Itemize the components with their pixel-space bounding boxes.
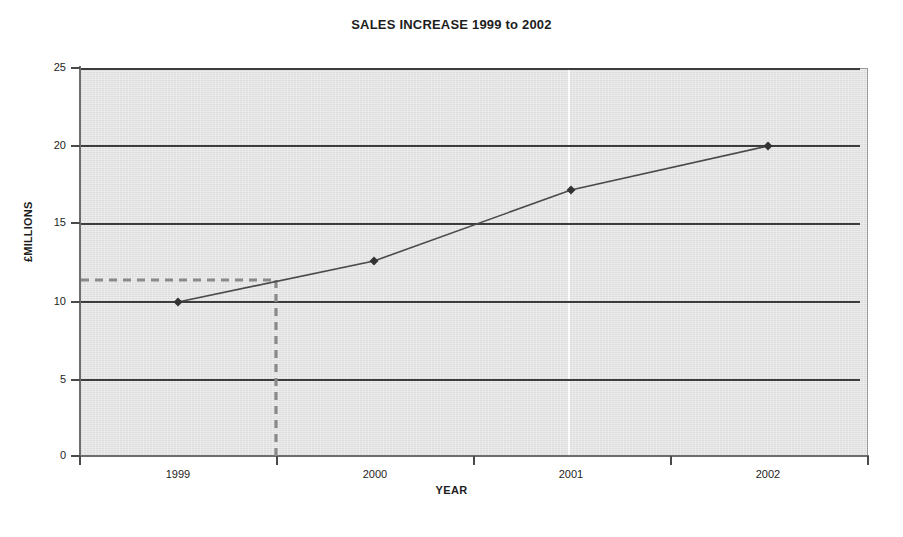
- scan-line-artifact: [568, 68, 570, 456]
- x-tick-start: [79, 456, 81, 465]
- plot-background-texture: [80, 68, 868, 456]
- y-tick-label-20: 20: [26, 139, 66, 151]
- y-tick-20: [71, 145, 80, 147]
- x-tick-label-2000: 2000: [335, 468, 415, 480]
- gridline-20: [80, 145, 860, 147]
- gridline-25: [80, 68, 860, 70]
- y-tick-label-25: 25: [26, 61, 66, 73]
- x-tick-label-2002: 2002: [728, 468, 808, 480]
- y-tick-label-10: 10: [26, 295, 66, 307]
- y-tick-label-0: 0: [26, 449, 66, 461]
- x-tick-2: [473, 456, 475, 465]
- y-tick-10: [71, 301, 80, 303]
- x-tick-end: [867, 456, 869, 465]
- x-tick-label-2001: 2001: [531, 468, 611, 480]
- y-axis-line: [79, 66, 81, 458]
- gridline-5: [80, 379, 860, 381]
- x-tick-label-1999: 1999: [138, 468, 218, 480]
- y-tick-label-5: 5: [26, 373, 66, 385]
- y-axis-label: £MILLIONS: [22, 202, 34, 262]
- gridline-15: [80, 223, 860, 225]
- chart-title: SALES INCREASE 1999 to 2002: [0, 17, 903, 32]
- y-tick-5: [71, 379, 80, 381]
- gridline-10: [80, 301, 860, 303]
- y-tick-25: [71, 67, 80, 69]
- x-axis-label: YEAR: [0, 484, 903, 496]
- plot-frame-right: [867, 68, 868, 456]
- chart-figure: SALES INCREASE 1999 to 2002 25 20 15 10 …: [0, 0, 903, 537]
- plot-area: [80, 68, 868, 456]
- y-tick-15: [71, 222, 80, 224]
- x-tick-1: [276, 456, 278, 465]
- x-tick-3: [670, 456, 672, 465]
